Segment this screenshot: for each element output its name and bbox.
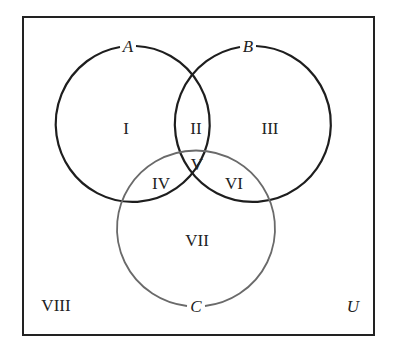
circle-a	[56, 46, 210, 202]
region-label-ii: II	[190, 119, 202, 138]
set-label-b: B	[243, 37, 254, 56]
region-label-vii: VII	[185, 231, 209, 250]
region-label-v: V	[191, 155, 204, 174]
set-label-a: A	[122, 37, 134, 56]
region-label-iii: III	[262, 119, 279, 138]
region-label-iv: IV	[152, 174, 171, 193]
region-label-vi: VI	[225, 174, 243, 193]
region-label-viii: VIII	[41, 296, 71, 315]
region-label-i: I	[123, 119, 129, 138]
set-label-c: C	[190, 297, 202, 316]
universe-label: U	[347, 297, 361, 316]
venn-diagram: A B C U I II III IV V VI VII VIII	[0, 0, 393, 358]
